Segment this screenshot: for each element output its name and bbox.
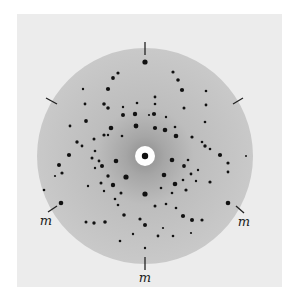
diffraction-spot [85,221,88,224]
diffraction-spot [227,171,230,174]
diffraction-spot [82,88,84,90]
direct-beam-spot [142,153,148,159]
diffraction-spot [190,232,192,234]
diffraction-spot [106,87,110,91]
diffraction-spot [209,148,212,151]
diffraction-spot [84,119,88,123]
diffraction-spot [81,145,84,148]
diffraction-spot [173,182,178,187]
diffraction-spot [138,217,141,220]
diffraction-spot [195,180,197,182]
diffraction-spot [204,121,207,124]
diffraction-spot [60,171,63,174]
diffraction-spot [111,76,115,80]
diffraction-spot [142,191,147,196]
diffraction-spot [100,164,104,168]
diffraction-spot [87,185,89,187]
diffraction-spot [181,214,185,218]
diffraction-spot [92,221,95,224]
diffraction-spot [203,144,206,147]
diffraction-spot [109,126,114,131]
diffraction-spot [245,155,247,157]
diffraction-spot [121,135,124,138]
diffraction-spot [183,107,186,110]
diffraction-spot [54,175,56,177]
diffraction-spot [175,207,178,210]
diffraction-spot [143,223,147,227]
diffraction-spot [152,112,156,116]
diffraction-spot [57,163,61,167]
diffraction-spot [163,128,168,133]
diffraction-spot [171,192,174,195]
diffraction-spot [174,126,177,129]
diffraction-spot [134,124,139,129]
diffraction-spot [94,167,96,169]
diffraction-spot [182,164,186,168]
diffraction-spot [106,174,109,177]
diffraction-spot [148,114,150,116]
diffraction-spot [132,233,134,235]
diffraction-spot [157,235,160,238]
diffraction-spot [226,201,231,206]
diffraction-spot [226,161,229,164]
diffraction-spot [142,59,147,64]
diffraction-spot [91,157,94,160]
laue-diffraction-pattern [0,0,297,304]
mirror-plane-label: m [40,214,52,227]
diffraction-spot [67,153,71,157]
diffraction-spot [172,235,175,238]
diffraction-spot [103,190,105,192]
diffraction-spot [111,183,115,187]
diffraction-spot [43,189,46,192]
diffraction-spot [144,247,146,249]
diffraction-spot [106,106,110,110]
diffraction-spot [208,180,211,183]
diffraction-spot [119,240,122,243]
diffraction-spot [154,103,157,106]
diffraction-spot [190,173,193,176]
diffraction-spot [100,182,103,185]
diffraction-spot [136,102,139,105]
diffraction-spot [94,150,97,153]
diffraction-spot [59,201,64,206]
diffraction-spot [162,173,167,178]
diffraction-spot [200,218,203,221]
diffraction-spot [102,133,105,136]
diffraction-spot [103,220,107,224]
diffraction-spot [102,102,106,106]
diffraction-spot [153,126,157,130]
diffraction-spot [75,140,78,143]
diffraction-spot [107,134,109,136]
diffraction-spot [121,113,125,117]
mirror-plane-label: m [139,271,151,284]
diffraction-spot [114,159,119,164]
diffraction-spot [133,112,137,116]
diffraction-spot [122,106,124,108]
diffraction-spot [174,134,179,139]
diffraction-spot [205,90,208,93]
diffraction-spot [171,70,174,73]
diffraction-spot [165,203,168,206]
diffraction-spot [93,138,96,141]
diffraction-spot [123,174,128,179]
mirror-plane-label: m [238,215,250,228]
diffraction-spot [84,103,87,106]
diffraction-spot [154,205,157,208]
diffraction-spot [180,88,184,92]
diffraction-spot [218,153,222,157]
diffraction-spot [176,78,180,82]
diffraction-spot [197,169,199,171]
diffraction-spot [160,187,163,190]
diffraction-spot [120,192,123,195]
diffraction-spot [182,179,185,182]
diffraction-spot [187,159,190,162]
diffraction-spot [205,104,208,107]
diffraction-spot [165,116,167,118]
diffraction-spot [190,135,193,138]
diffraction-spot [162,227,164,229]
diffraction-spot [98,160,101,163]
diffraction-spot [170,158,175,163]
diffraction-spot [154,96,157,99]
diffraction-spot [201,141,204,144]
diffraction-spot [69,125,72,128]
